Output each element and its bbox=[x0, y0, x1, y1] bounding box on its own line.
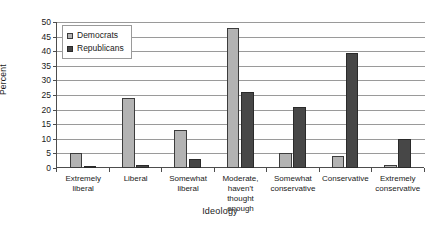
x-tick-mark bbox=[56, 168, 57, 172]
bar-group bbox=[372, 22, 424, 168]
x-tick-mark bbox=[214, 168, 215, 172]
x-tick-mark bbox=[319, 168, 320, 172]
x-tick-mark bbox=[266, 168, 267, 172]
x-category-label-line: haven't bbox=[215, 184, 265, 194]
x-tick-mark bbox=[371, 168, 372, 172]
bar-democrats bbox=[279, 153, 292, 168]
bar-republicans bbox=[398, 139, 411, 168]
y-tick-label: 15 bbox=[42, 120, 51, 129]
bar-republicans bbox=[241, 92, 254, 168]
bar-democrats bbox=[332, 156, 345, 168]
bar-democrats bbox=[122, 98, 135, 168]
y-tick-label: 10 bbox=[42, 135, 51, 144]
bar-group bbox=[267, 22, 319, 168]
x-category-label-line: Conservative bbox=[320, 174, 370, 184]
x-category-label-line: Somewhat bbox=[268, 174, 318, 184]
legend-swatch-republicans-icon bbox=[67, 46, 73, 52]
legend-label-democrats: Democrats bbox=[77, 31, 118, 40]
x-tick-mark bbox=[161, 168, 162, 172]
x-category-label-line: conservative bbox=[373, 184, 423, 194]
x-category-label-line: liberal bbox=[163, 184, 213, 194]
y-tick-label: 40 bbox=[42, 47, 51, 56]
x-axis-title: Ideology bbox=[0, 206, 440, 216]
y-tick-label: 25 bbox=[42, 91, 51, 100]
y-axis-title: Percent bbox=[0, 64, 8, 95]
x-category-label-line: Extremely bbox=[373, 174, 423, 184]
y-tick-label: 5 bbox=[46, 149, 51, 158]
bar-democrats bbox=[174, 130, 187, 168]
y-tick-label: 0 bbox=[46, 164, 51, 173]
bar-democrats bbox=[70, 153, 83, 168]
x-axis-ticks bbox=[56, 168, 424, 173]
x-category-label-line: liberal bbox=[58, 184, 108, 194]
x-category-label-line: conservative bbox=[268, 184, 318, 194]
x-category-label-line: Somewhat bbox=[163, 174, 213, 184]
legend-item-republicans: Republicans bbox=[67, 42, 124, 55]
y-tick-label: 50 bbox=[42, 18, 51, 27]
x-tick-mark bbox=[424, 168, 425, 172]
bar-group bbox=[214, 22, 266, 168]
x-category-label-line: Liberal bbox=[110, 174, 160, 184]
legend-swatch-democrats-icon bbox=[67, 33, 73, 39]
x-category-label-line: Moderate, bbox=[215, 174, 265, 184]
x-tick-mark bbox=[109, 168, 110, 172]
chart-legend: Democrats Republicans bbox=[62, 25, 132, 59]
bar-republicans bbox=[346, 53, 359, 168]
bar-group bbox=[162, 22, 214, 168]
y-tick-label: 20 bbox=[42, 105, 51, 114]
bar-republicans bbox=[293, 107, 306, 168]
legend-item-democrats: Democrats bbox=[67, 29, 124, 42]
ideology-party-bar-chart: Percent 50454035302520151050 Extremelyli… bbox=[0, 0, 440, 226]
bar-republicans bbox=[189, 159, 202, 168]
y-tick-label: 35 bbox=[42, 62, 51, 71]
bar-group bbox=[319, 22, 371, 168]
bar-democrats bbox=[227, 28, 240, 168]
y-tick-label: 30 bbox=[42, 76, 51, 85]
y-tick-label: 45 bbox=[42, 32, 51, 41]
legend-label-republicans: Republicans bbox=[77, 44, 124, 53]
x-category-label-line: Extremely bbox=[58, 174, 108, 184]
